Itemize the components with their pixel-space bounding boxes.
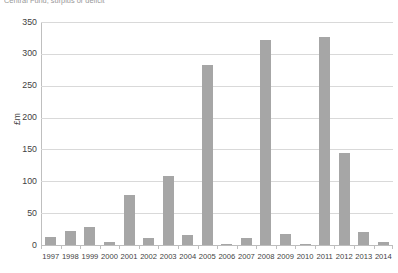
- y-axis-tick-label: 300: [3, 49, 37, 58]
- x-axis-tick-label: 2009: [276, 251, 296, 263]
- tick-mark: [178, 245, 179, 249]
- x-axis-tick: [100, 245, 120, 249]
- tick-mark: [256, 245, 257, 249]
- x-axis-tick: [217, 245, 237, 249]
- x-axis-tick: [315, 245, 335, 249]
- bar[interactable]: [202, 65, 213, 245]
- tick-mark: [158, 245, 159, 249]
- bar-slot: [217, 22, 237, 245]
- x-axis-tick: [158, 245, 178, 249]
- x-axis-tick-label: 2008: [256, 251, 276, 263]
- bar-slot: [237, 22, 257, 245]
- chart-title: Central Fund, surplus or deficit: [4, 0, 254, 5]
- tick-mark: [80, 245, 81, 249]
- x-axis-tick-label: 2005: [198, 251, 218, 263]
- bar[interactable]: [358, 232, 369, 245]
- tick-mark: [374, 245, 375, 249]
- bar-slot: [198, 22, 218, 245]
- bar[interactable]: [143, 238, 154, 245]
- x-axis-tick: [276, 245, 296, 249]
- tick-mark: [198, 245, 199, 249]
- bar-series: [41, 22, 393, 245]
- bar[interactable]: [260, 40, 271, 245]
- bar-slot: [178, 22, 198, 245]
- bar[interactable]: [65, 231, 76, 245]
- bar-slot: [41, 22, 61, 245]
- bar[interactable]: [84, 227, 95, 245]
- bar[interactable]: [280, 234, 291, 245]
- x-axis-tick: [61, 245, 81, 249]
- tick-mark: [41, 245, 42, 249]
- bar[interactable]: [45, 237, 56, 245]
- bar[interactable]: [182, 235, 193, 245]
- x-axis-tick: [295, 245, 315, 249]
- bar-slot: [256, 22, 276, 245]
- x-axis-tick-label: 2003: [158, 251, 178, 263]
- bar-slot: [139, 22, 159, 245]
- tick-mark: [119, 245, 120, 249]
- x-axis-tick-label: 2004: [178, 251, 198, 263]
- x-axis-tick-label: 1999: [80, 251, 100, 263]
- bar-slot: [100, 22, 120, 245]
- x-axis-tick-label: 2007: [237, 251, 257, 263]
- x-axis-tick: [374, 245, 394, 249]
- bar-slot: [158, 22, 178, 245]
- tick-mark: [295, 245, 296, 249]
- x-axis-tick-label: 2001: [119, 251, 139, 263]
- tick-mark: [354, 245, 355, 249]
- y-axis-tick-label: 50: [3, 209, 37, 218]
- x-axis-tick-label: 2013: [354, 251, 374, 263]
- y-axis-tick-labels: 050100150200250300350: [0, 0, 37, 273]
- x-axis-tick: [354, 245, 374, 249]
- x-axis-tick: [256, 245, 276, 249]
- y-axis-tick-label: 0: [3, 241, 37, 250]
- x-axis-tick-label: 1997: [41, 251, 61, 263]
- bar[interactable]: [124, 195, 135, 245]
- y-axis-tick-label: 100: [3, 177, 37, 186]
- tick-mark: [392, 245, 393, 249]
- y-axis-tick-label: 250: [3, 81, 37, 90]
- x-axis-tick-label: 2000: [100, 251, 120, 263]
- bar-slot: [315, 22, 335, 245]
- x-axis-tick-label: 2014: [374, 251, 394, 263]
- bar-slot: [374, 22, 394, 245]
- plot-area: [41, 22, 393, 245]
- bar-slot: [119, 22, 139, 245]
- x-axis-tick-labels: 1997199819992000200120022003200420052006…: [41, 251, 393, 263]
- x-axis-tick-label: 2010: [295, 251, 315, 263]
- bar-slot: [295, 22, 315, 245]
- bar-slot: [276, 22, 296, 245]
- x-axis-tick: [139, 245, 159, 249]
- x-axis-tick-label: 2012: [334, 251, 354, 263]
- x-axis-tick-label: 1998: [61, 251, 81, 263]
- bar[interactable]: [339, 153, 350, 245]
- tick-mark: [334, 245, 335, 249]
- bar-chart-figure: Central Fund, surplus or deficit £m 0501…: [0, 0, 398, 273]
- x-axis-tick: [237, 245, 257, 249]
- bar-slot: [334, 22, 354, 245]
- bar-slot: [80, 22, 100, 245]
- tick-mark: [315, 245, 316, 249]
- bar[interactable]: [319, 37, 330, 245]
- x-axis-tick: [198, 245, 218, 249]
- bar[interactable]: [241, 238, 252, 245]
- tick-mark: [100, 245, 101, 249]
- x-axis-tick: [41, 245, 61, 249]
- tick-mark: [61, 245, 62, 249]
- bar-slot: [354, 22, 374, 245]
- y-axis-tick-label: 350: [3, 18, 37, 27]
- x-axis-tick-label: 2006: [217, 251, 237, 263]
- x-axis-tick: [80, 245, 100, 249]
- x-axis-tick-label: 2011: [315, 251, 335, 263]
- bar-slot: [61, 22, 81, 245]
- x-axis-ticks: [41, 245, 393, 249]
- x-axis-tick: [334, 245, 354, 249]
- x-axis-tick: [119, 245, 139, 249]
- tick-mark: [237, 245, 238, 249]
- y-axis-tick-label: 150: [3, 145, 37, 154]
- x-axis-tick: [178, 245, 198, 249]
- x-axis-tick-label: 2002: [139, 251, 159, 263]
- tick-mark: [139, 245, 140, 249]
- bar[interactable]: [163, 176, 174, 245]
- tick-mark: [276, 245, 277, 249]
